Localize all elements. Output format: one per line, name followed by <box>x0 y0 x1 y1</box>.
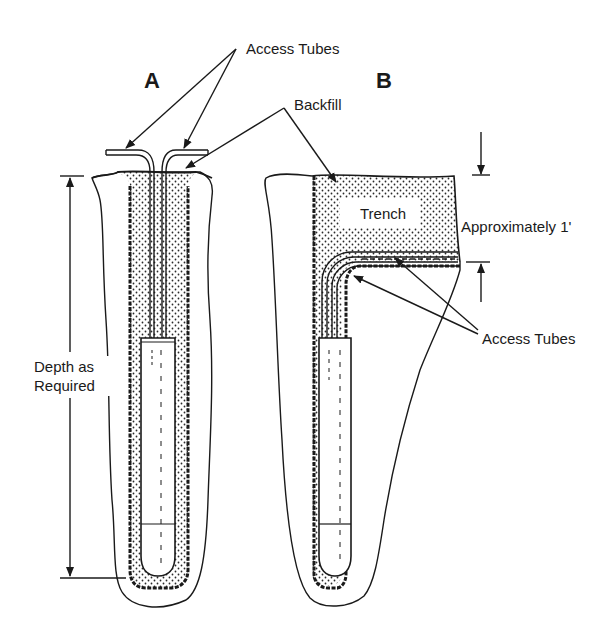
panel-b <box>265 132 490 606</box>
access-tubes-leader-a-right <box>184 49 236 148</box>
panel-b-borehole-wall-right <box>336 266 460 588</box>
access-tubes-leader-b-upper <box>395 258 478 330</box>
access-tubes-label-right: Access Tubes <box>482 330 575 347</box>
depth-label-line2: Required <box>34 377 95 394</box>
access-tubes-label-top: Access Tubes <box>246 40 339 57</box>
depth-label-line1: Depth as <box>34 358 94 375</box>
panel-b-probe <box>319 338 351 576</box>
panel-b-access-tube-outer-2 <box>332 262 458 340</box>
access-tubes-leader-a-left <box>126 49 236 148</box>
approximately-label: Approximately 1' <box>461 218 572 235</box>
access-tube-diagram: A B Access Tubes Backfill Trench Approxi… <box>0 0 616 632</box>
panel-a-label: A <box>144 68 160 93</box>
backfill-leader-b <box>284 108 336 182</box>
backfill-label: Backfill <box>294 96 342 113</box>
trench-label: Trench <box>360 205 406 222</box>
access-tubes-leader-b-lower <box>354 276 478 334</box>
panel-b-label: B <box>376 68 392 93</box>
panel-a-probe <box>141 338 175 576</box>
